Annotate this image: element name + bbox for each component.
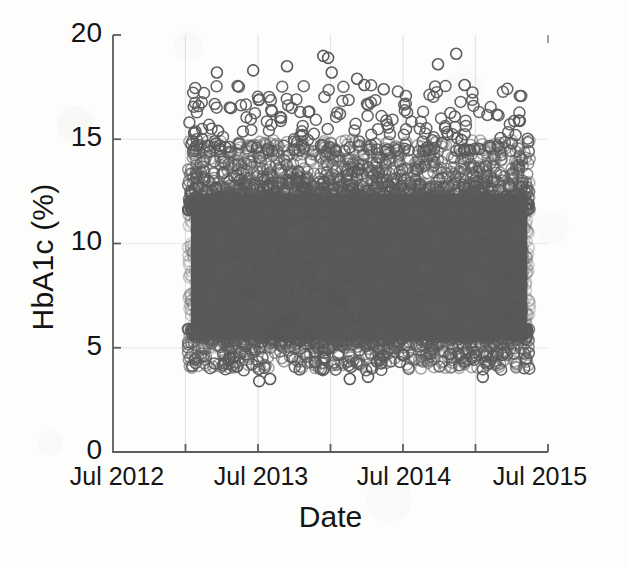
scatter-chart-figure: 20 15 10 5 0 Jul 2012 Jul 2013 Jul 2014 …: [0, 0, 627, 568]
plot-area: [0, 0, 627, 568]
